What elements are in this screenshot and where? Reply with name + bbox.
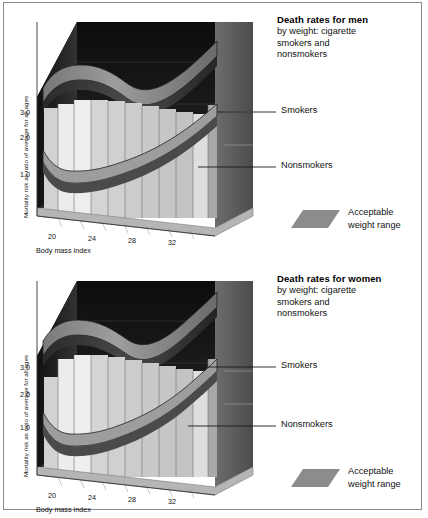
acceptable-range-swatch (291, 210, 340, 228)
x-tick-label-28: 28 (128, 236, 136, 245)
floor-columns (44, 355, 217, 477)
x-tick-label-32: 32 (168, 497, 176, 506)
chart-panel-men: Mortality risk as ratio of average for a… (0, 0, 428, 259)
callout-nonsmokers: Nonsmokers (281, 160, 333, 170)
y-axis-title: Mortality risk as ratio of average for a… (22, 355, 29, 477)
y-tick-label-1: 1.0 (20, 423, 30, 432)
y-tick-label-2: 2.0 (20, 390, 30, 399)
chart-subtitle-line-1: by weight: cigarette (277, 26, 425, 38)
y-tick-label-1: 1.0 (20, 170, 30, 179)
x-tick-label-24: 24 (88, 234, 96, 243)
callout-smokers: Smokers (281, 105, 317, 115)
chart-panel-women: Mortality risk as ratio of average for a… (0, 259, 428, 518)
chart-title-men: Death rates for men (277, 14, 425, 26)
chart-subtitle-line-3: nonsmokers (277, 308, 425, 320)
figure-root: Mortality risk as ratio of average for a… (0, 0, 428, 518)
legend-label-line-2: weight range (348, 478, 401, 490)
y-tick-label-2: 2.0 (20, 133, 30, 142)
chart-title-block-women: Death rates for women by weight: cigaret… (277, 273, 425, 320)
chart-subtitle-line-2: smokers and (277, 38, 425, 50)
x-tick-label-24: 24 (88, 493, 96, 502)
legend-label-line-2: weight range (348, 219, 401, 231)
legend-label-line-1: Acceptable (348, 206, 393, 218)
legend-label-line-1: Acceptable (348, 465, 393, 477)
chart-subtitle-line-2: smokers and (277, 297, 425, 309)
right-wall (215, 22, 253, 228)
x-tick-label-20: 20 (48, 232, 56, 241)
callout-smokers: Smokers (281, 360, 317, 370)
x-tick-label-20: 20 (48, 491, 56, 500)
right-wall (215, 281, 253, 487)
chart-subtitle-line-1: by weight: cigarette (277, 285, 425, 297)
y-tick-label-3: 3.0 (20, 363, 30, 372)
x-axis-title: Body mass index (36, 505, 91, 514)
x-tick-label-28: 28 (128, 495, 136, 504)
x-axis-title: Body mass index (36, 246, 91, 255)
acceptable-range-swatch (291, 469, 340, 487)
chart-title-block-men: Death rates for men by weight: cigarette… (277, 14, 425, 61)
callout-nonsmokers: Nonsmokers (281, 419, 333, 429)
x-tick-label-32: 32 (168, 238, 176, 247)
chart-title-women: Death rates for women (277, 273, 425, 285)
chart-subtitle-line-3: nonsmokers (277, 49, 425, 61)
y-tick-label-3: 3.0 (20, 108, 30, 117)
